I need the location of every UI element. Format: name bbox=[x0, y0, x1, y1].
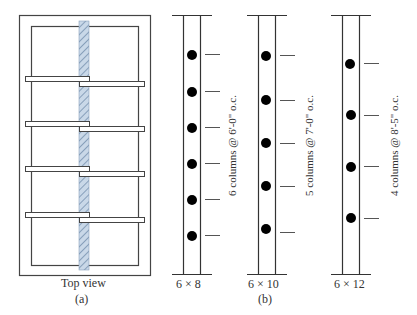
plank-pair-3 bbox=[26, 167, 145, 177]
spacing-note-6x12: 4 columns @ 8'-5" o.c. bbox=[388, 95, 400, 196]
spacing-ticks bbox=[205, 55, 220, 236]
spacing-note-6x10: 5 columns @ 7'-0" o.c. bbox=[303, 95, 315, 196]
column-dots bbox=[345, 59, 356, 223]
column-size-6x10: 6 × 10 bbox=[248, 277, 279, 292]
spacing-ticks bbox=[280, 56, 295, 233]
plank-pair-1 bbox=[26, 77, 145, 87]
column-size-6x8: 6 × 8 bbox=[176, 277, 201, 292]
column-size-6x12: 6 × 12 bbox=[334, 277, 365, 292]
column-6x10 bbox=[247, 15, 295, 275]
plank-pair-2 bbox=[26, 122, 145, 132]
column-dots bbox=[261, 51, 271, 234]
spacing-note-6x8: 6 columns @ 6'-0" o.c. bbox=[226, 95, 238, 196]
column-dots bbox=[187, 50, 197, 241]
plank-pair-4 bbox=[26, 213, 145, 223]
diagram-canvas bbox=[0, 0, 417, 315]
top-view-caption: Top view bbox=[61, 276, 106, 291]
top-view bbox=[20, 16, 151, 276]
column-6x8 bbox=[172, 15, 220, 275]
part-a-label: (a) bbox=[75, 292, 88, 307]
part-b-label: (b) bbox=[258, 292, 272, 307]
hatched-beam bbox=[79, 21, 89, 270]
column-6x12 bbox=[331, 15, 379, 275]
spacing-ticks bbox=[364, 64, 379, 219]
